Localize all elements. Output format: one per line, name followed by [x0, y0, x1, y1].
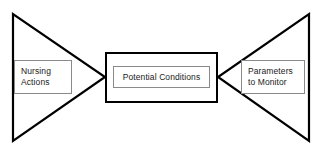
node-label-nursing-actions-line-2: Actions — [21, 77, 50, 88]
node-label-nursing-actions-line-1: Nursing — [21, 66, 51, 77]
node-label-parameters-to-monitor[interactable]: Parameters to Monitor — [241, 60, 305, 94]
node-label-nursing-actions[interactable]: Nursing Actions — [14, 60, 72, 94]
diagram-canvas: Nursing Actions Potential Conditions Par… — [0, 0, 322, 155]
node-label-potential-conditions[interactable]: Potential Conditions — [113, 66, 210, 88]
node-label-parameters-to-monitor-line-2: to Monitor — [248, 77, 287, 88]
node-label-potential-conditions-line-1: Potential Conditions — [123, 72, 201, 83]
node-label-parameters-to-monitor-line-1: Parameters — [248, 66, 293, 77]
